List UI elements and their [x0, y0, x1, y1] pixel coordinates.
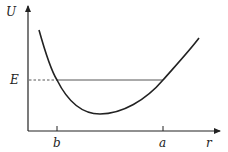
potential-curve: [39, 30, 199, 114]
potential-energy-diagram: U r E b a: [0, 0, 228, 152]
x-axis-label: r: [206, 136, 213, 150]
y-axis-label: U: [6, 5, 17, 19]
tick-label-b: b: [53, 136, 61, 150]
energy-label: E: [9, 73, 19, 87]
tick-label-a: a: [159, 136, 166, 150]
